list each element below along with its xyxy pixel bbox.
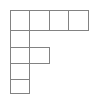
polyomino-cell-fill — [68, 10, 88, 30]
polyomino-cell-fill — [10, 63, 29, 79]
polyomino-figure — [0, 0, 96, 97]
polyomino-cell-fill — [10, 47, 29, 63]
polyomino-cell-fill — [10, 79, 29, 93]
polyomino-cell-fill — [49, 10, 68, 30]
polyomino-cell-fill — [29, 10, 49, 30]
polyomino-cell-fill — [10, 30, 29, 47]
polyomino-cell-fill — [29, 47, 49, 63]
polyomino-cell-fill — [10, 10, 29, 30]
polyomino-grid-svg — [0, 0, 96, 97]
